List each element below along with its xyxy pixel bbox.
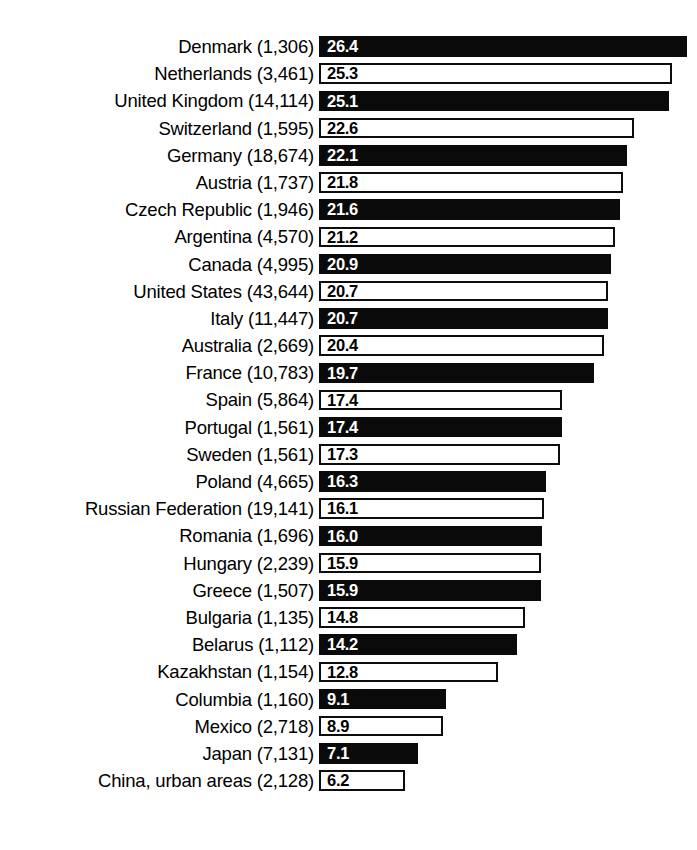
bar-row: Netherlands (3,461)25.3 <box>0 60 697 87</box>
bar-row: Canada (4,995)20.9 <box>0 251 697 278</box>
bar-row: Japan (7,131)7.1 <box>0 740 697 767</box>
bar <box>319 308 608 329</box>
category-label: Mexico (2,718) <box>194 713 314 740</box>
category-label: Hungary (2,239) <box>183 550 314 577</box>
category-label: Switzerland (1,595) <box>158 115 314 142</box>
bar-value-label: 20.7 <box>319 281 358 302</box>
category-label: Argentina (4,570) <box>174 223 314 250</box>
bar-row: Hungary (2,239)15.9 <box>0 550 697 577</box>
bar <box>319 91 669 112</box>
category-label: Austria (1,737) <box>196 169 314 196</box>
bar-value-label: 21.2 <box>319 227 358 248</box>
bar-row: Argentina (4,570)21.2 <box>0 223 697 250</box>
bar <box>319 363 594 384</box>
bar-row: Australia (2,669)20.4 <box>0 332 697 359</box>
bar-row: United States (43,644)20.7 <box>0 278 697 305</box>
category-label: Netherlands (3,461) <box>154 60 314 87</box>
category-label: United States (43,644) <box>133 278 314 305</box>
bar-track: 21.2 <box>319 223 697 250</box>
category-label: Czech Republic (1,946) <box>125 196 314 223</box>
bar-row: Mexico (2,718)8.9 <box>0 713 697 740</box>
category-label: Japan (7,131) <box>202 740 314 767</box>
bar-value-label: 15.9 <box>319 580 358 601</box>
bar-value-label: 12.8 <box>319 662 358 683</box>
bar-track: 20.4 <box>319 332 697 359</box>
bar <box>319 172 623 193</box>
bar-value-label: 20.4 <box>319 335 358 356</box>
bar-value-label: 25.1 <box>319 91 358 112</box>
bar-row: Poland (4,665)16.3 <box>0 468 697 495</box>
category-label: Germany (18,674) <box>167 142 314 169</box>
bar-value-label: 16.3 <box>319 471 358 492</box>
bar-row: Greece (1,507)15.9 <box>0 577 697 604</box>
bar-row: Romania (1,696)16.0 <box>0 522 697 549</box>
bar-value-label: 26.4 <box>319 36 358 57</box>
bar-value-label: 17.3 <box>319 444 358 465</box>
bar-value-label: 19.7 <box>319 363 358 384</box>
category-label: France (10,783) <box>185 359 314 386</box>
bar <box>319 118 634 139</box>
bar <box>319 227 615 248</box>
bar-rows-container: Denmark (1,306)26.4Netherlands (3,461)25… <box>0 33 697 794</box>
bar-track: 17.4 <box>319 386 697 413</box>
bar-row: France (10,783)19.7 <box>0 359 697 386</box>
category-label: Greece (1,507) <box>192 577 314 604</box>
category-label: China, urban areas (2,128) <box>98 767 314 794</box>
bar-value-label: 21.6 <box>319 199 358 220</box>
bar-row: United Kingdom (14,114)25.1 <box>0 87 697 114</box>
bar-track: 19.7 <box>319 359 697 386</box>
category-label: Spain (5,864) <box>206 386 314 413</box>
category-label: Sweden (1,561) <box>186 441 314 468</box>
category-label: Kazakhstan (1,154) <box>157 658 314 685</box>
bar-value-label: 17.4 <box>319 417 358 438</box>
bar-value-label: 17.4 <box>319 390 358 411</box>
bar-track: 12.8 <box>319 658 697 685</box>
category-label: Columbia (1,160) <box>175 686 314 713</box>
bar-value-label: 14.8 <box>319 607 358 628</box>
bar-track: 16.0 <box>319 522 697 549</box>
bar-value-label: 16.0 <box>319 526 358 547</box>
category-label: Romania (1,696) <box>179 522 314 549</box>
category-label: Russian Federation (19,141) <box>85 495 314 522</box>
bar-row: Austria (1,737)21.8 <box>0 169 697 196</box>
bar-track: 25.1 <box>319 87 697 114</box>
bar-row: Italy (11,447)20.7 <box>0 305 697 332</box>
bar-track: 25.3 <box>319 60 697 87</box>
bar-track: 6.2 <box>319 767 697 794</box>
category-label: Denmark (1,306) <box>178 33 314 60</box>
bar-value-label: 14.2 <box>319 634 358 655</box>
bar-track: 22.6 <box>319 115 697 142</box>
bar-track: 15.9 <box>319 550 697 577</box>
bar-track: 22.1 <box>319 142 697 169</box>
bar-row: China, urban areas (2,128)6.2 <box>0 767 697 794</box>
bar-value-label: 9.1 <box>319 689 349 710</box>
bar-track: 8.9 <box>319 713 697 740</box>
bar-value-label: 21.8 <box>319 172 358 193</box>
bar-value-label: 7.1 <box>319 743 349 764</box>
bar-row: Germany (18,674)22.1 <box>0 142 697 169</box>
bar <box>319 281 608 302</box>
bar <box>319 36 687 57</box>
bar-track: 7.1 <box>319 740 697 767</box>
category-label: Australia (2,669) <box>182 332 314 359</box>
bar-row: Columbia (1,160)9.1 <box>0 686 697 713</box>
bar-row: Czech Republic (1,946)21.6 <box>0 196 697 223</box>
bar-track: 26.4 <box>319 33 697 60</box>
bar-track: 20.9 <box>319 251 697 278</box>
bar-value-label: 22.6 <box>319 118 358 139</box>
bar-track: 15.9 <box>319 577 697 604</box>
bar-value-label: 22.1 <box>319 145 358 166</box>
bar-value-label: 8.9 <box>319 716 349 737</box>
bar-row: Sweden (1,561)17.3 <box>0 441 697 468</box>
bar-value-label: 15.9 <box>319 553 358 574</box>
bar-value-label: 16.1 <box>319 498 358 519</box>
bar-track: 21.6 <box>319 196 697 223</box>
bar-value-label: 20.9 <box>319 254 358 275</box>
bar-row: Belarus (1,112)14.2 <box>0 631 697 658</box>
bar-track: 17.3 <box>319 441 697 468</box>
bar <box>319 335 604 356</box>
category-label: Portugal (1,561) <box>185 414 314 441</box>
bar-track: 14.8 <box>319 604 697 631</box>
bar-value-label: 6.2 <box>319 770 349 791</box>
category-label: Italy (11,447) <box>210 305 314 332</box>
